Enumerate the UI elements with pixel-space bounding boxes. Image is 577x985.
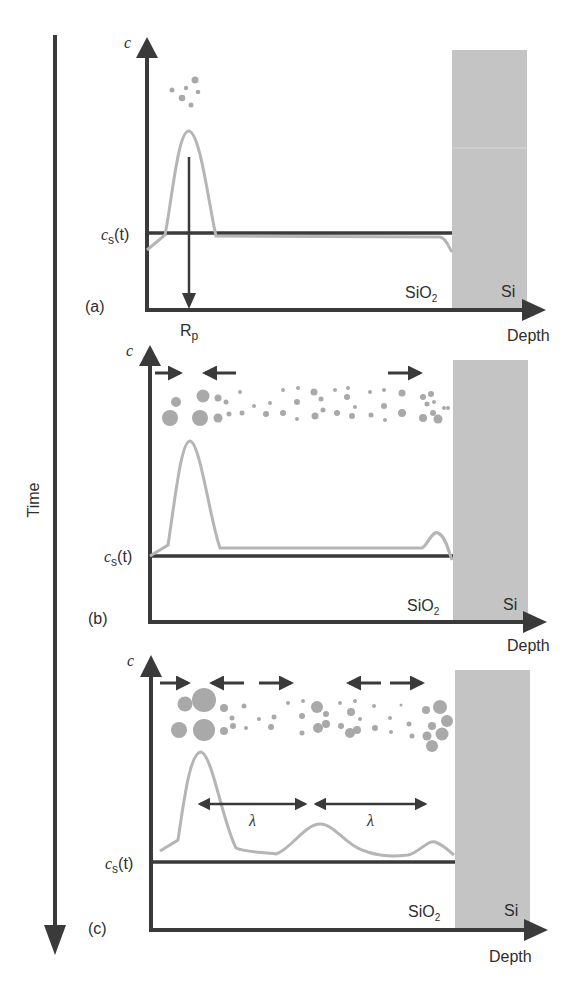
si-label: Si	[504, 902, 518, 919]
panel-label: (b)	[88, 610, 108, 627]
si-substrate-block	[455, 670, 530, 928]
y-axis-arrowhead-icon	[140, 655, 162, 677]
x-axis-arrowhead-icon	[522, 299, 546, 321]
ion-particles	[171, 688, 453, 752]
si-substrate-block	[452, 50, 527, 308]
si-label: Si	[503, 596, 517, 613]
x-axis-label: Depth	[507, 637, 550, 654]
x-axis-arrowhead-icon	[524, 919, 548, 941]
y-axis-arrowhead-icon	[136, 37, 158, 58]
cs-label: cs(t)	[105, 855, 133, 876]
concentration-profile-curve	[150, 441, 452, 560]
implanted-ions	[170, 77, 201, 108]
panel-label: (c)	[88, 920, 107, 937]
oxide-label: SiO2	[408, 903, 441, 923]
panel-c: c cs(t) (c) λ λ SiO2 Si Depth	[88, 652, 548, 965]
cs-label: cs(t)	[104, 548, 132, 569]
y-axis-arrowhead-icon	[139, 345, 161, 366]
panel-a: c cs(t) (a) Rp SiO2 Si Depth	[85, 34, 550, 344]
oxide-label: SiO2	[407, 597, 440, 617]
time-arrowhead-icon	[44, 925, 66, 955]
panel-label: (a)	[85, 298, 105, 315]
y-axis-label: c	[124, 34, 131, 51]
x-axis-label: Depth	[507, 327, 550, 344]
rp-arrowhead-icon	[182, 293, 196, 309]
y-axis-label: c	[126, 342, 133, 359]
panel-b: c cs(t) (b) SiO2 Si Depth	[88, 342, 550, 654]
si-substrate-block	[453, 360, 528, 620]
time-axis: Time	[25, 35, 66, 955]
lambda-label: λ	[366, 812, 374, 829]
lambda-label: λ	[248, 812, 256, 829]
oxide-label: SiO2	[405, 284, 438, 304]
si-label: Si	[501, 283, 515, 300]
x-axis-label: Depth	[489, 948, 532, 965]
rp-label: Rp	[180, 322, 199, 343]
ion-particles	[162, 386, 450, 426]
cs-label: cs(t)	[101, 226, 129, 247]
x-axis-arrowhead-icon	[523, 611, 547, 633]
time-label: Time	[25, 482, 42, 517]
diagram-canvas: Time c cs(t) (a) Rp SiO2 Si Depth	[0, 0, 577, 985]
y-axis-label: c	[127, 652, 134, 669]
